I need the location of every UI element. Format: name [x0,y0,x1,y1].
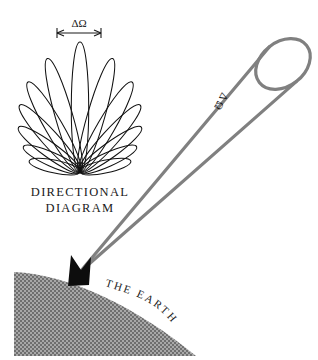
cone-beam-angle-label: Δ Ω [212,91,231,112]
radiation-lobe [78,59,115,173]
cone-aperture-ellipse [246,28,318,100]
directional-diagram-label-line2: DIAGRAM [46,201,115,215]
beam-angle-dimension [57,28,101,38]
beam-angle-top-label: ΔΩ [71,17,86,29]
directional-diagram-label-line1: DIRECTIONAL [31,185,129,199]
beam-cone [80,28,318,272]
antenna-horn-shape [68,255,91,286]
directional-diagram-lobes [18,42,142,175]
cone-edge-left [80,81,297,272]
earth-body [14,272,196,356]
radiation-lobe [29,158,80,175]
figure-canvas: THE EARTH Δ Ω DIRECTIONAL DIAGRAM ΔΩ [0,0,318,360]
horn-antenna [68,255,91,286]
radiation-lobe [45,59,82,173]
radiation-lobe [71,42,88,172]
antenna-beam-diagram: THE EARTH Δ Ω DIRECTIONAL DIAGRAM ΔΩ [0,0,318,360]
radiation-lobe [80,158,131,175]
